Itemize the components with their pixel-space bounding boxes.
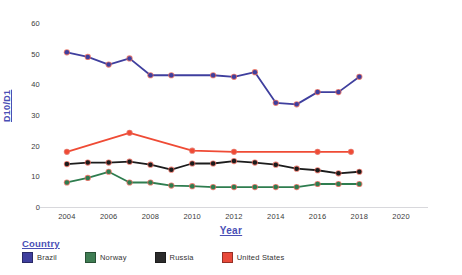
data-point bbox=[106, 62, 111, 67]
y-tick-label: 40 bbox=[31, 80, 40, 89]
legend-item-label: Russia bbox=[170, 253, 194, 262]
data-point bbox=[127, 131, 132, 136]
data-point bbox=[211, 161, 216, 166]
data-point bbox=[127, 159, 132, 164]
data-point bbox=[274, 185, 279, 190]
legend-title: Country bbox=[22, 238, 462, 249]
data-point bbox=[253, 160, 258, 165]
data-point bbox=[357, 75, 362, 80]
data-point bbox=[65, 180, 70, 185]
legend-item-united-states[interactable]: United States bbox=[222, 252, 285, 263]
data-point bbox=[357, 170, 362, 175]
x-tick-label: 2004 bbox=[58, 212, 76, 221]
plot-region: D10/D1 0102030405060 2004200620082010201… bbox=[0, 0, 462, 232]
legend-swatch-icon bbox=[22, 252, 33, 263]
series-united-states bbox=[64, 130, 354, 155]
data-point bbox=[336, 182, 341, 187]
y-tick-label: 50 bbox=[31, 49, 40, 58]
data-point bbox=[232, 159, 237, 164]
data-point bbox=[294, 102, 299, 107]
data-point bbox=[86, 176, 91, 181]
data-point bbox=[148, 162, 153, 167]
data-point bbox=[106, 170, 111, 175]
data-point bbox=[336, 90, 341, 95]
legend-swatch-icon bbox=[222, 252, 233, 263]
y-axis-ticks: 0102030405060 bbox=[0, 0, 40, 232]
data-point bbox=[169, 73, 174, 78]
x-axis-title: Year bbox=[0, 225, 462, 236]
data-point bbox=[169, 167, 174, 172]
legend-item-label: Brazil bbox=[37, 253, 57, 262]
legend-items: BrazilNorwayRussiaUnited States bbox=[22, 252, 462, 263]
data-point bbox=[232, 185, 237, 190]
series-svg bbox=[46, 14, 422, 207]
y-tick-label: 30 bbox=[31, 111, 40, 120]
data-point bbox=[336, 171, 341, 176]
data-point bbox=[315, 182, 320, 187]
legend-swatch-icon bbox=[85, 252, 96, 263]
data-point bbox=[127, 56, 132, 61]
data-point bbox=[190, 161, 195, 166]
data-point bbox=[127, 180, 132, 185]
data-point bbox=[294, 185, 299, 190]
x-axis-line bbox=[40, 207, 428, 208]
data-point bbox=[65, 50, 70, 55]
data-point bbox=[190, 184, 195, 189]
data-point bbox=[148, 73, 153, 78]
data-point bbox=[232, 75, 237, 80]
legend-item-label: Norway bbox=[100, 253, 127, 262]
data-point bbox=[253, 185, 258, 190]
data-point bbox=[86, 160, 91, 165]
data-point bbox=[211, 73, 216, 78]
data-point bbox=[274, 101, 279, 106]
x-tick-label: 2006 bbox=[100, 212, 118, 221]
data-point bbox=[211, 185, 216, 190]
data-point bbox=[274, 162, 279, 167]
data-point bbox=[315, 150, 320, 155]
data-point bbox=[357, 182, 362, 187]
data-point bbox=[190, 148, 195, 153]
y-tick-label: 20 bbox=[31, 141, 40, 150]
data-point bbox=[315, 90, 320, 95]
data-point bbox=[253, 70, 258, 75]
x-tick-label: 2020 bbox=[392, 212, 410, 221]
data-point bbox=[294, 166, 299, 171]
data-point bbox=[349, 150, 354, 155]
legend: Country BrazilNorwayRussiaUnited States bbox=[22, 238, 462, 263]
line-chart: D10/D1 0102030405060 2004200620082010201… bbox=[0, 0, 462, 275]
data-point bbox=[65, 150, 70, 155]
legend-swatch-icon bbox=[155, 252, 166, 263]
series-brazil bbox=[64, 49, 363, 107]
x-tick-label: 2016 bbox=[309, 212, 327, 221]
legend-item-label: United States bbox=[237, 253, 285, 262]
y-tick-label: 10 bbox=[31, 172, 40, 181]
legend-item-russia[interactable]: Russia bbox=[155, 252, 194, 263]
data-point bbox=[106, 160, 111, 165]
data-point bbox=[169, 183, 174, 188]
x-tick-label: 2014 bbox=[267, 212, 285, 221]
x-tick-label: 2008 bbox=[142, 212, 160, 221]
x-tick-label: 2010 bbox=[183, 212, 201, 221]
data-point bbox=[148, 180, 153, 185]
legend-item-brazil[interactable]: Brazil bbox=[22, 252, 57, 263]
data-point bbox=[86, 55, 91, 60]
y-tick-label: 60 bbox=[31, 19, 40, 28]
x-tick-label: 2018 bbox=[351, 212, 369, 221]
data-point bbox=[65, 162, 70, 167]
data-point bbox=[315, 168, 320, 173]
x-tick-label: 2012 bbox=[225, 212, 243, 221]
series-line bbox=[67, 133, 351, 152]
series-container bbox=[46, 14, 422, 207]
data-point bbox=[232, 150, 237, 155]
legend-item-norway[interactable]: Norway bbox=[85, 252, 127, 263]
